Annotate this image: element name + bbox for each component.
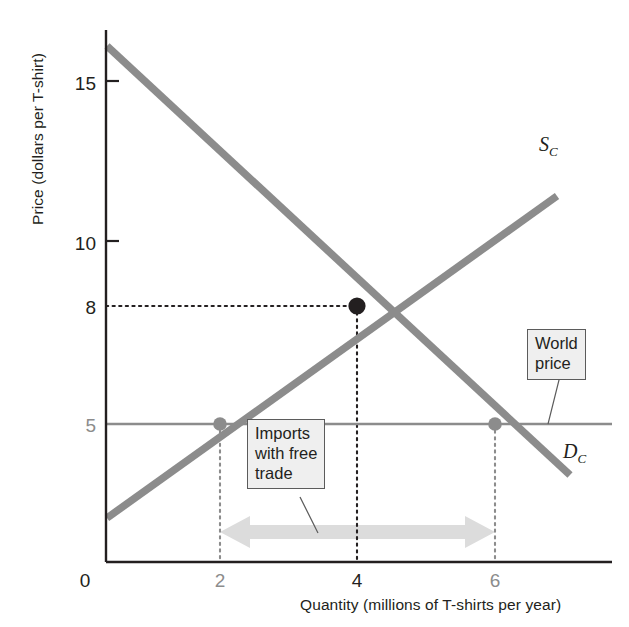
world-price-callout-line-1: World [535, 334, 578, 354]
supply-curve-label-subscript: C [549, 144, 558, 159]
demand-curve [107, 46, 570, 475]
demand-curve-label-subscript: C [577, 451, 586, 466]
imports-callout-line-1: Imports [255, 424, 317, 444]
imports-callout-line-3: trade [255, 464, 317, 484]
supply-demand-chart: Price (dollars per T-shirt) Quantity (mi… [0, 0, 629, 627]
no-trade-equilibrium-marker [348, 297, 365, 314]
imports-callout: Imports with free trade [247, 419, 325, 489]
domestic-quantity-demanded-marker [488, 417, 502, 431]
supply-curve [107, 196, 557, 518]
plot-canvas [0, 0, 629, 627]
supply-curve-label: SC [539, 133, 558, 160]
demand-curve-label-letter: D [563, 440, 577, 462]
supply-curve-label-letter: S [539, 133, 549, 155]
world-price-callout-line-2: price [535, 354, 578, 374]
world-price-callout: World price [527, 329, 586, 380]
world-price-leader [548, 376, 560, 424]
demand-curve-label: DC [563, 440, 586, 467]
y-axis-ticks [106, 81, 119, 241]
imports-callout-line-2: with free [255, 444, 317, 464]
domestic-quantity-supplied-marker [213, 417, 227, 431]
